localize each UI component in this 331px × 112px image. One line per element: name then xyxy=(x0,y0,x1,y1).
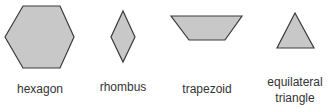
triangle-label: triangle xyxy=(260,91,330,105)
equilateral-triangle-shape xyxy=(277,13,314,48)
rhombus-shape xyxy=(111,11,135,62)
hexagon-shape xyxy=(5,6,74,68)
hexagon-label: hexagon xyxy=(10,82,70,96)
trapezoid-label: trapezoid xyxy=(175,82,239,96)
equilateral-label: equilateral xyxy=(260,75,330,89)
trapezoid-shape xyxy=(171,16,242,40)
rhombus-label: rhombus xyxy=(93,80,153,94)
